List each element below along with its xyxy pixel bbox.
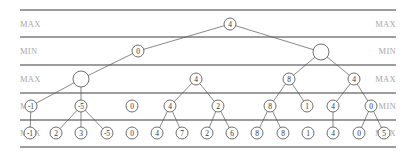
minimax-tree-diagram: MAXMINMAXMINMAX MAXMINMAXMINMAX 40484-1-…: [0, 0, 414, 157]
node-circle: [73, 71, 89, 87]
node-value: 2: [205, 129, 209, 138]
level-label-left: MAX: [20, 74, 41, 84]
node-value: 7: [180, 129, 184, 138]
tree-node: 5: [378, 127, 390, 139]
node-value: 0: [357, 129, 361, 138]
tree-node: 4: [190, 73, 202, 85]
node-value: 4: [352, 75, 356, 84]
node-value: 0: [136, 47, 140, 56]
node-value: 8: [255, 129, 259, 138]
node-value: 0: [130, 129, 134, 138]
tree-node: -5: [75, 100, 87, 112]
tree-node: 8: [264, 100, 276, 112]
tree-node: 4: [151, 127, 163, 139]
node-value: 4: [228, 20, 232, 29]
tree-node: 4: [327, 127, 339, 139]
node-value: 1: [305, 102, 309, 111]
tree-node: -1: [24, 127, 36, 139]
tree-node: 4: [224, 18, 236, 30]
level-label-right: MIN: [379, 101, 396, 111]
node-value: 3: [79, 129, 83, 138]
tree-node: 2: [50, 127, 62, 139]
level-label-left: MIN: [20, 46, 37, 56]
node-value: 6: [230, 129, 234, 138]
node-value: 2: [54, 129, 58, 138]
node-value: -1: [28, 102, 34, 111]
tree-node: 0: [365, 100, 377, 112]
tree-nodes: 40484-1-50428140-123-504726881405: [24, 18, 390, 139]
tree-node: 8: [277, 127, 289, 139]
node-value: 4: [155, 129, 159, 138]
tree-node: [73, 71, 89, 87]
node-value: 8: [287, 75, 291, 84]
level-label-right: MAX: [375, 74, 396, 84]
node-value: -5: [78, 102, 84, 111]
node-value: 8: [268, 102, 272, 111]
tree-edge: [230, 24, 321, 52]
node-value: 4: [168, 102, 172, 111]
level-label-right: MIN: [379, 46, 396, 56]
tree-node: 0: [353, 127, 365, 139]
tree-node: 4: [327, 100, 339, 112]
tree-node: 0: [126, 100, 138, 112]
tree-node: 4: [348, 73, 360, 85]
node-circle: [313, 44, 329, 60]
node-value: 1: [306, 129, 310, 138]
node-value: -5: [104, 129, 110, 138]
tree-node: 1: [302, 127, 314, 139]
tree-node: 3: [75, 127, 87, 139]
tree-node: 0: [126, 127, 138, 139]
node-value: 2: [216, 102, 220, 111]
tree-node: -5: [101, 127, 113, 139]
tree-node: 6: [226, 127, 238, 139]
node-value: -1: [27, 129, 33, 138]
tree-node: 2: [201, 127, 213, 139]
level-label-right: MAX: [375, 19, 396, 29]
node-value: 4: [331, 102, 335, 111]
node-value: 0: [130, 102, 134, 111]
tree-node: 8: [251, 127, 263, 139]
tree-node: 2: [212, 100, 224, 112]
tree-node: 1: [301, 100, 313, 112]
node-value: 8: [281, 129, 285, 138]
tree-node: 0: [132, 45, 144, 57]
level-label-left: MAX: [20, 19, 41, 29]
node-value: 5: [382, 129, 386, 138]
node-value: 0: [369, 102, 373, 111]
tree-node: [313, 44, 329, 60]
tree-node: -1: [25, 100, 37, 112]
node-value: 4: [194, 75, 198, 84]
node-value: 4: [331, 129, 335, 138]
tree-node: 7: [176, 127, 188, 139]
tree-node: 4: [164, 100, 176, 112]
tree-node: 8: [283, 73, 295, 85]
